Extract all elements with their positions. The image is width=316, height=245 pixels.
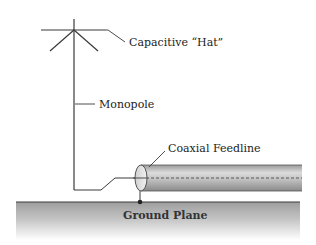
coaxial-feedline <box>133 165 302 191</box>
ground-connection-dot <box>138 200 143 205</box>
feed-wire <box>74 178 140 190</box>
label-coaxial-feedline: Coaxial Feedline <box>168 142 261 155</box>
hat-leader-line <box>106 30 125 42</box>
label-monopole: Monopole <box>99 98 154 111</box>
monopole-antenna-diagram: Capacitive “Hat” Monopole Coaxial Feedli… <box>0 0 316 245</box>
label-ground-plane: Ground Plane <box>123 209 208 222</box>
label-capacitive-hat: Capacitive “Hat” <box>129 36 223 49</box>
